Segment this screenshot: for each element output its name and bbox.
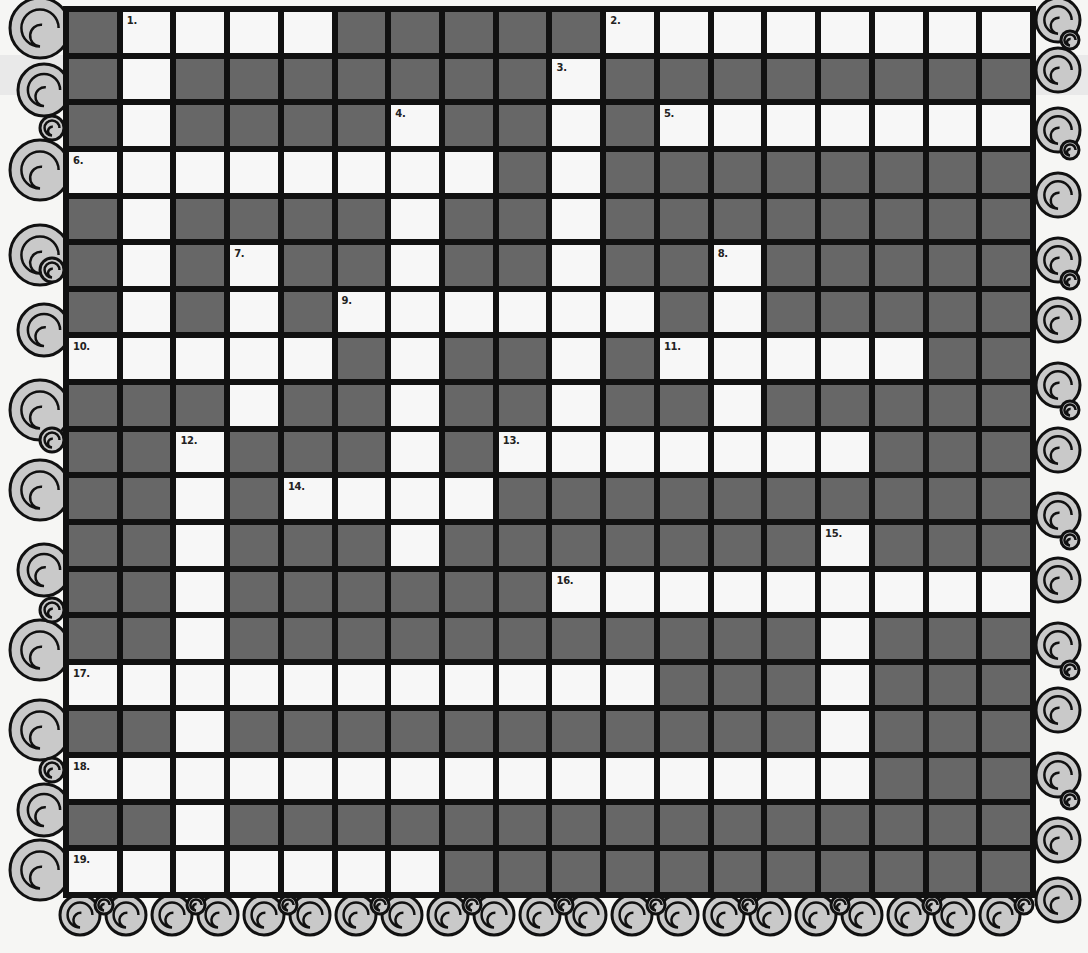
answer-cell[interactable] <box>338 851 386 892</box>
answer-cell[interactable] <box>391 292 439 333</box>
answer-cell[interactable] <box>123 245 171 286</box>
answer-cell[interactable] <box>821 572 869 613</box>
answer-cell[interactable] <box>821 105 869 146</box>
answer-cell[interactable] <box>606 758 654 799</box>
answer-cell[interactable] <box>875 338 923 379</box>
answer-cell[interactable] <box>445 478 493 519</box>
answer-cell[interactable] <box>284 12 332 53</box>
answer-cell[interactable] <box>338 152 386 193</box>
answer-cell[interactable] <box>660 572 708 613</box>
answer-cell[interactable]: 13. <box>499 432 547 473</box>
answer-cell[interactable] <box>230 292 278 333</box>
answer-cell[interactable]: 7. <box>230 245 278 286</box>
answer-cell[interactable] <box>445 152 493 193</box>
answer-cell[interactable] <box>230 758 278 799</box>
answer-cell[interactable] <box>445 758 493 799</box>
answer-cell[interactable] <box>176 152 224 193</box>
answer-cell[interactable] <box>821 338 869 379</box>
answer-cell[interactable] <box>176 338 224 379</box>
answer-cell[interactable] <box>176 665 224 706</box>
answer-cell[interactable] <box>714 385 762 426</box>
answer-cell[interactable]: 14. <box>284 478 332 519</box>
answer-cell[interactable] <box>875 572 923 613</box>
answer-cell[interactable]: 6. <box>69 152 117 193</box>
answer-cell[interactable] <box>499 292 547 333</box>
answer-cell[interactable] <box>552 385 600 426</box>
answer-cell[interactable] <box>391 758 439 799</box>
answer-cell[interactable] <box>660 758 708 799</box>
answer-cell[interactable] <box>338 665 386 706</box>
answer-cell[interactable]: 1. <box>123 12 171 53</box>
answer-cell[interactable] <box>230 338 278 379</box>
answer-cell[interactable] <box>660 432 708 473</box>
answer-cell[interactable] <box>982 12 1030 53</box>
answer-cell[interactable] <box>123 665 171 706</box>
answer-cell[interactable] <box>445 665 493 706</box>
answer-cell[interactable] <box>929 572 977 613</box>
answer-cell[interactable] <box>391 245 439 286</box>
answer-cell[interactable] <box>767 12 815 53</box>
answer-cell[interactable] <box>284 338 332 379</box>
answer-cell[interactable] <box>176 478 224 519</box>
answer-cell[interactable] <box>391 385 439 426</box>
answer-cell[interactable]: 2. <box>606 12 654 53</box>
answer-cell[interactable] <box>821 758 869 799</box>
answer-cell[interactable] <box>123 105 171 146</box>
answer-cell[interactable] <box>445 292 493 333</box>
answer-cell[interactable] <box>284 851 332 892</box>
answer-cell[interactable] <box>552 105 600 146</box>
answer-cell[interactable] <box>821 432 869 473</box>
answer-cell[interactable] <box>606 432 654 473</box>
answer-cell[interactable] <box>176 758 224 799</box>
answer-cell[interactable] <box>821 665 869 706</box>
answer-cell[interactable] <box>552 199 600 240</box>
answer-cell[interactable] <box>982 572 1030 613</box>
answer-cell[interactable] <box>714 432 762 473</box>
answer-cell[interactable] <box>284 665 332 706</box>
answer-cell[interactable] <box>552 758 600 799</box>
answer-cell[interactable] <box>552 338 600 379</box>
answer-cell[interactable] <box>230 12 278 53</box>
answer-cell[interactable] <box>982 105 1030 146</box>
answer-cell[interactable] <box>767 432 815 473</box>
answer-cell[interactable] <box>714 292 762 333</box>
answer-cell[interactable] <box>230 665 278 706</box>
answer-cell[interactable] <box>123 59 171 100</box>
answer-cell[interactable] <box>176 711 224 752</box>
answer-cell[interactable]: 17. <box>69 665 117 706</box>
answer-cell[interactable] <box>552 245 600 286</box>
answer-cell[interactable] <box>123 199 171 240</box>
answer-cell[interactable]: 3. <box>552 59 600 100</box>
answer-cell[interactable] <box>714 572 762 613</box>
answer-cell[interactable]: 15. <box>821 525 869 566</box>
answer-cell[interactable] <box>552 152 600 193</box>
answer-cell[interactable] <box>875 12 923 53</box>
answer-cell[interactable] <box>606 292 654 333</box>
answer-cell[interactable] <box>767 572 815 613</box>
answer-cell[interactable]: 16. <box>552 572 600 613</box>
answer-cell[interactable] <box>767 338 815 379</box>
answer-cell[interactable] <box>821 618 869 659</box>
answer-cell[interactable] <box>929 12 977 53</box>
answer-cell[interactable] <box>123 758 171 799</box>
answer-cell[interactable] <box>338 758 386 799</box>
answer-cell[interactable] <box>123 338 171 379</box>
answer-cell[interactable] <box>391 338 439 379</box>
answer-cell[interactable]: 4. <box>391 105 439 146</box>
answer-cell[interactable] <box>391 152 439 193</box>
answer-cell[interactable]: 10. <box>69 338 117 379</box>
answer-cell[interactable] <box>391 851 439 892</box>
answer-cell[interactable] <box>391 525 439 566</box>
answer-cell[interactable]: 11. <box>660 338 708 379</box>
answer-cell[interactable] <box>338 478 386 519</box>
answer-cell[interactable] <box>284 758 332 799</box>
answer-cell[interactable] <box>284 152 332 193</box>
answer-cell[interactable]: 9. <box>338 292 386 333</box>
answer-cell[interactable] <box>499 758 547 799</box>
answer-cell[interactable] <box>767 105 815 146</box>
answer-cell[interactable] <box>176 12 224 53</box>
answer-cell[interactable] <box>391 478 439 519</box>
answer-cell[interactable] <box>714 12 762 53</box>
answer-cell[interactable] <box>123 292 171 333</box>
answer-cell[interactable] <box>391 199 439 240</box>
